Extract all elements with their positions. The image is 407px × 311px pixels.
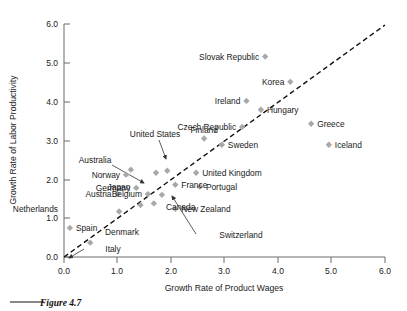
data-point-label: Spain xyxy=(76,223,98,233)
data-point-label: Italy xyxy=(105,244,121,254)
data-point-label: Greece xyxy=(317,119,345,129)
data-point-marker xyxy=(116,208,122,214)
data-point-marker xyxy=(193,170,199,176)
figure-caption: Figure 4.7 xyxy=(39,298,82,308)
x-tick-3: 3.0 xyxy=(218,266,230,276)
scatter-chart: 6.0 5.0 4.0 3.0 2.0 1.0 0.0 0.0 1.0 2.0 … xyxy=(0,0,407,311)
data-point-label: Australia xyxy=(79,155,112,165)
data-point-marker xyxy=(159,192,165,198)
data-point-label: Belgium xyxy=(112,189,142,199)
data-point-marker xyxy=(258,107,264,113)
data-point-label: Korea xyxy=(262,77,285,87)
y-tick-2: 2.0 xyxy=(46,175,58,185)
data-point-label: Switzerland xyxy=(219,230,263,240)
data-point-label: Portugal xyxy=(206,182,237,192)
data-point-label: Austria xyxy=(85,189,111,199)
data-point-label: Netherlands xyxy=(13,204,58,214)
data-point-marker xyxy=(123,171,129,177)
data-point-label: Canada xyxy=(166,202,196,212)
data-point-marker xyxy=(243,98,249,104)
y-tick-0: 0.0 xyxy=(46,252,58,262)
data-point-marker xyxy=(262,53,268,59)
x-axis: 0.0 1.0 2.0 3.0 4.0 5.0 6.0 xyxy=(58,257,391,276)
y-axis-title: Growth Rate of Labor Productivity xyxy=(8,75,18,205)
data-point-label: United States xyxy=(130,129,180,139)
y-axis: 6.0 5.0 4.0 3.0 2.0 1.0 0.0 xyxy=(46,19,70,262)
data-point-marker xyxy=(153,170,159,176)
data-point-label: Norway xyxy=(92,170,121,180)
data-point-marker xyxy=(151,200,157,206)
data-point-marker xyxy=(128,166,134,172)
data-point-marker xyxy=(201,135,207,141)
data-point-marker xyxy=(308,121,314,127)
data-point-label: Sweden xyxy=(228,140,259,150)
data-point-label: Slovak Republic xyxy=(199,52,259,62)
x-axis-title: Growth Rate of Product Wages xyxy=(165,283,284,293)
figure-container: 6.0 5.0 4.0 3.0 2.0 1.0 0.0 0.0 1.0 2.0 … xyxy=(0,0,407,311)
data-point-marker xyxy=(164,168,170,174)
x-tick-0: 0.0 xyxy=(58,266,70,276)
data-point-label: Denmark xyxy=(105,227,140,237)
x-tick-1: 1.0 xyxy=(111,266,123,276)
leader-united-states xyxy=(159,140,166,159)
data-point-label: United Kingdom xyxy=(202,168,262,178)
y-tick-5: 5.0 xyxy=(46,58,58,68)
data-point-marker xyxy=(67,225,73,231)
data-point-marker xyxy=(172,182,178,188)
y-tick-6: 6.0 xyxy=(46,19,58,29)
x-tick-4: 4.0 xyxy=(272,266,284,276)
data-point-marker xyxy=(287,79,293,85)
data-point-label: Hungary xyxy=(267,105,299,115)
data-point-marker xyxy=(145,191,151,197)
y-tick-3: 3.0 xyxy=(46,136,58,146)
y-tick-4: 4.0 xyxy=(46,97,58,107)
data-point-label: Ireland xyxy=(215,96,241,106)
y-tick-1: 1.0 xyxy=(46,213,58,223)
data-point-label: Iceland xyxy=(335,140,362,150)
data-point-marker xyxy=(219,142,225,148)
x-tick-6: 6.0 xyxy=(379,266,391,276)
x-tick-2: 2.0 xyxy=(165,266,177,276)
data-point-label: France xyxy=(181,180,207,190)
x-tick-5: 5.0 xyxy=(325,266,337,276)
data-point-label: Finland xyxy=(190,125,218,135)
data-point-layer: Slovak RepublicKoreaIrelandHungaryGreece… xyxy=(13,52,362,254)
data-point-marker xyxy=(326,142,332,148)
